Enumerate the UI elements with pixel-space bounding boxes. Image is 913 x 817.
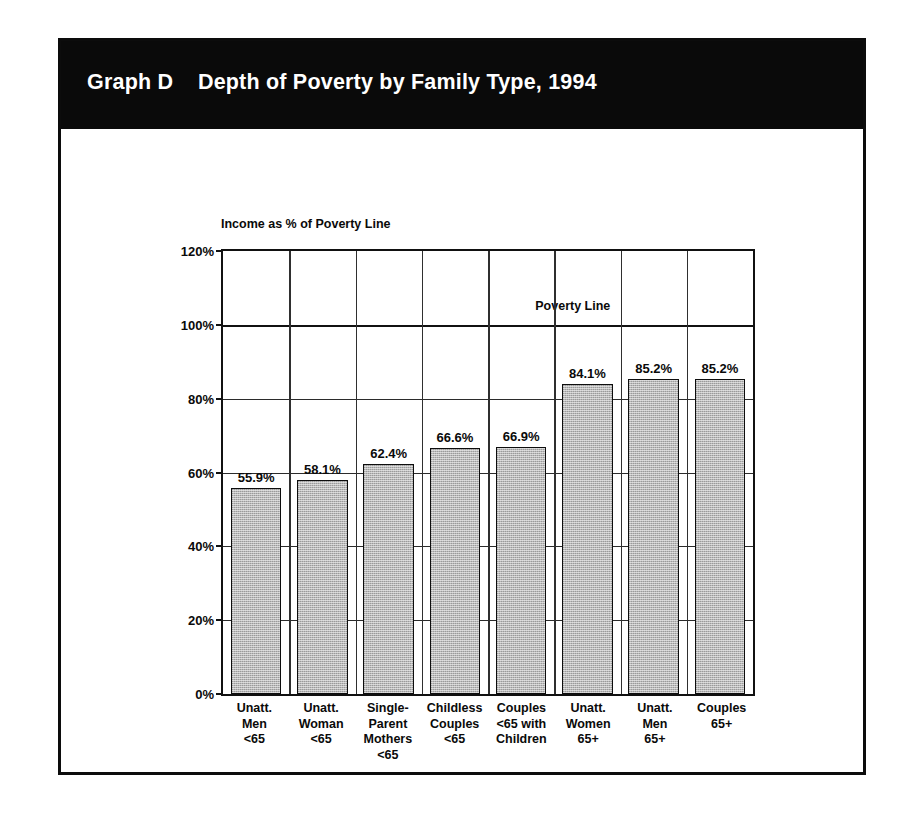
y-axis-tick-label: 60% (188, 465, 214, 480)
x-axis-labels: Unatt.Men<65Unatt.Woman<65Single-ParentM… (221, 701, 755, 801)
category-separator (488, 251, 490, 694)
x-axis-label-line: <65 (421, 732, 488, 748)
category-separator (422, 251, 424, 694)
x-axis-label-line: Mothers (355, 732, 422, 748)
x-axis-label-line: Parent (355, 717, 422, 733)
bar[interactable] (297, 480, 347, 694)
bar[interactable] (562, 384, 612, 694)
x-axis-category-label: ChildlessCouples<65 (421, 701, 488, 748)
bar-group: 66.9% (488, 251, 554, 694)
x-axis-label-line: Couples (688, 701, 755, 717)
bar-group: 85.2% (621, 251, 687, 694)
x-axis-label-line: Men (622, 717, 689, 733)
bar-value-label: 62.4% (370, 446, 407, 461)
x-axis-label-line: Unatt. (221, 701, 288, 717)
title-banner: Graph D Depth of Poverty by Family Type,… (61, 41, 863, 129)
category-separator (554, 251, 556, 694)
y-tickmark-120 (216, 250, 223, 252)
bar-chart: Income as % of Poverty Line 0%20%40%60%8… (61, 129, 863, 772)
bar[interactable] (363, 464, 413, 694)
bar-value-label: 58.1% (304, 462, 341, 477)
page-title: Graph D Depth of Poverty by Family Type,… (87, 70, 597, 95)
y-tickmark-60 (216, 472, 223, 474)
x-axis-label-line: Unatt. (288, 701, 355, 717)
x-axis-category-label: Single-ParentMothers<65 (355, 701, 422, 763)
y-tickmark-40 (216, 545, 223, 547)
x-axis-label-line: 65+ (555, 732, 622, 748)
x-axis-category-label: Couples65+ (688, 701, 755, 732)
y-tickmark-80 (216, 398, 223, 400)
y-axis-tick-label: 120% (181, 244, 214, 259)
x-axis-label-line: Woman (288, 717, 355, 733)
y-axis-tick-label: 20% (188, 613, 214, 628)
y-axis-tick-label: 0% (195, 687, 214, 702)
y-axis-title: Income as % of Poverty Line (221, 217, 391, 231)
document-page-frame: Graph D Depth of Poverty by Family Type,… (58, 38, 866, 775)
bar-value-label: 84.1% (569, 366, 606, 381)
bar-group: 55.9% (223, 251, 289, 694)
bar-value-label: 85.2% (635, 361, 672, 376)
x-axis-label-line: Couples (421, 717, 488, 733)
category-separator (687, 251, 689, 694)
bar-value-label: 66.9% (503, 429, 540, 444)
x-axis-category-label: Unatt.Men65+ (622, 701, 689, 748)
bar-value-label: 85.2% (701, 361, 738, 376)
bar-value-label: 66.6% (436, 430, 473, 445)
bar-group: 62.4% (356, 251, 422, 694)
y-tickmark-20 (216, 619, 223, 621)
bar[interactable] (231, 488, 281, 694)
x-axis-label-line: Men (221, 717, 288, 733)
y-axis-tick-label: 40% (188, 539, 214, 554)
x-axis-label-line: Unatt. (622, 701, 689, 717)
x-axis-category-label: Unatt.Woman<65 (288, 701, 355, 748)
x-axis-label-line: 65+ (622, 732, 689, 748)
bar-group: 66.6% (422, 251, 488, 694)
x-axis-label-line: Unatt. (555, 701, 622, 717)
y-axis-tick-label: 100% (181, 317, 214, 332)
x-axis-label-line: <65 (221, 732, 288, 748)
x-axis-category-label: Couples<65 withChildren (488, 701, 555, 748)
category-separator (289, 251, 291, 694)
x-axis-label-line: <65 with (488, 717, 555, 733)
x-axis-label-line: <65 (288, 732, 355, 748)
x-axis-category-label: Unatt.Men<65 (221, 701, 288, 748)
x-axis-label-line: Couples (488, 701, 555, 717)
category-separator (621, 251, 623, 694)
bar[interactable] (628, 379, 678, 694)
bar[interactable] (695, 379, 745, 694)
bar-group: 85.2% (687, 251, 753, 694)
bar-group: 84.1% (554, 251, 620, 694)
bar-group: 58.1% (289, 251, 355, 694)
y-tickmark-0 (216, 693, 223, 695)
bar[interactable] (430, 448, 480, 694)
x-axis-label-line: Single- (355, 701, 422, 717)
x-axis-label-line: 65+ (688, 717, 755, 733)
x-axis-label-line: Childless (421, 701, 488, 717)
plot-area: 0%20%40%60%80%100%120%Poverty Line 55.9%… (221, 249, 755, 696)
bar[interactable] (496, 447, 546, 694)
category-separator (356, 251, 358, 694)
bar-value-label: 55.9% (238, 470, 275, 485)
y-axis-tick-label: 80% (188, 391, 214, 406)
x-axis-label-line: <65 (355, 748, 422, 764)
x-axis-label-line: Women (555, 717, 622, 733)
y-tickmark-100 (216, 324, 223, 326)
x-axis-label-line: Children (488, 732, 555, 748)
bars-layer: 55.9%58.1%62.4%66.6%66.9%84.1%85.2%85.2% (223, 251, 753, 694)
x-axis-category-label: Unatt.Women65+ (555, 701, 622, 748)
